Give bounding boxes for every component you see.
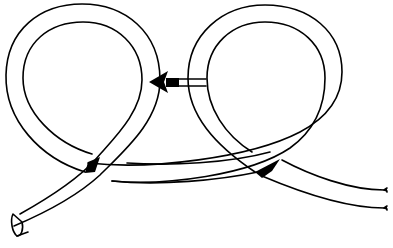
direction-arrow-icon [149, 71, 179, 93]
rope-standing-part [262, 160, 387, 210]
diagram-canvas [0, 0, 393, 248]
arrow-shaft [178, 79, 206, 86]
right-loop [88, 5, 342, 182]
left-loop [6, 4, 160, 236]
rope-knot-diagram [0, 0, 393, 248]
